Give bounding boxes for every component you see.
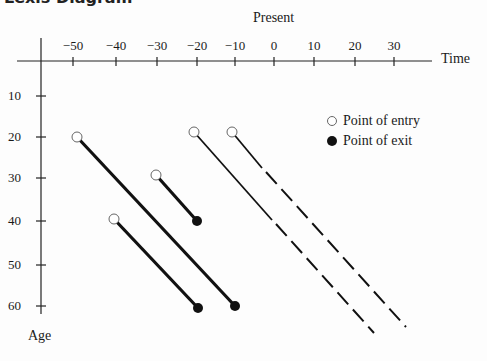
legend-item-exit: Point of exit [327,133,412,149]
exit-point-marker [230,301,240,311]
x-tick-label: 0 [271,38,278,54]
x-tick-label: 20 [349,38,362,54]
entry-point-marker [72,132,82,142]
life-line-3 [109,214,203,313]
entry-point-marker [227,127,237,137]
x-tick-label: −50 [63,38,83,54]
x-axis-label: Time [441,51,470,67]
life-line-2 [151,170,202,226]
y-tick-label: 60 [8,298,21,314]
y-tick-label: 40 [8,213,21,229]
x-tick-label: 10 [308,38,321,54]
y-tick-label: 10 [8,88,21,104]
x-tick-label: −10 [225,38,245,54]
exit-point-marker [192,216,202,226]
exit-point-marker [193,303,203,313]
y-tick-label: 30 [8,170,21,186]
y-tick-label: 20 [8,129,21,145]
y-tick-label: 50 [8,257,21,273]
x-tick-label: −30 [147,38,167,54]
entry-point-marker [109,214,119,224]
legend-item-entry: Point of entry [327,113,420,129]
entry-point-marker [151,170,161,180]
x-tick-label: 30 [388,38,401,54]
y-axis-label: Age [28,328,51,344]
legend-entry-label: Point of entry [343,113,420,129]
present-label: Present [253,10,294,26]
life-line-5 [227,127,406,327]
life-line-4 [189,127,374,333]
lexis-diagram-canvas [0,0,487,361]
legend-exit-label: Point of exit [343,133,412,149]
x-tick-label: −40 [106,38,126,54]
filled-circle-icon [327,136,337,146]
life-line-1 [72,132,240,311]
open-circle-icon [327,116,337,126]
entry-point-marker [189,127,199,137]
x-tick-label: −20 [187,38,207,54]
